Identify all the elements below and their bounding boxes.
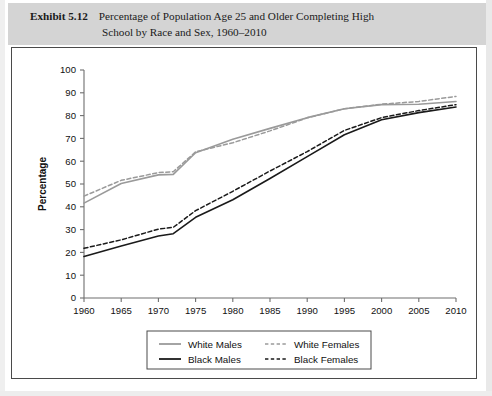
y-axis: 0102030405060708090100 — [60, 64, 84, 303]
x-axis: 1960196519701975198019851990199520002005… — [73, 298, 466, 316]
page-edge-left-shade — [0, 0, 5, 396]
x-tick-label: 1960 — [73, 305, 94, 316]
y-tick-label: 80 — [65, 110, 76, 121]
series-line-black-males — [84, 107, 456, 257]
y-tick-label: 30 — [65, 224, 76, 235]
y-tick-label: 70 — [65, 133, 76, 144]
y-tick-label: 10 — [65, 270, 76, 281]
exhibit-header-text: Exhibit 5.12Percentage of Population Age… — [30, 9, 480, 40]
x-tick-label: 1995 — [334, 305, 355, 316]
y-axis-title: Percentage — [37, 157, 48, 211]
x-tick-label: 1985 — [259, 305, 280, 316]
line-chart: 0102030405060708090100 19601965197019751… — [12, 48, 478, 380]
y-tick-label: 50 — [65, 178, 76, 189]
y-tick-label: 60 — [65, 156, 76, 167]
x-tick-label: 2005 — [408, 305, 429, 316]
x-tick-label: 2000 — [371, 305, 392, 316]
exhibit-caption: Percentage of Population Age 25 and Olde… — [30, 10, 480, 40]
x-tick-label: 1970 — [148, 305, 169, 316]
y-tick-label: 0 — [71, 292, 76, 303]
y-tick-label: 40 — [65, 201, 76, 212]
legend-label-white-females: White Females — [294, 339, 359, 350]
legend-label-white-males: White Males — [188, 339, 242, 350]
y-tick-label: 90 — [65, 87, 76, 98]
exhibit-number-label: Exhibit 5.12 — [30, 10, 88, 22]
x-tick-label: 1990 — [297, 305, 318, 316]
chart-legend: White MalesWhite FemalesBlack MalesBlack… — [147, 331, 371, 369]
series-line-white-females — [84, 96, 456, 196]
y-tick-label: 100 — [60, 64, 76, 75]
exhibit-caption-line-1: Percentage of Population Age 25 and Olde… — [99, 10, 374, 22]
legend-label-black-females: Black Females — [294, 354, 358, 365]
page-edge-bottom-shade — [0, 391, 492, 396]
x-tick-label: 1975 — [185, 305, 206, 316]
exhibit-header-band: Exhibit 5.12Percentage of Population Age… — [8, 3, 486, 45]
figure-frame: 0102030405060708090100 19601965197019751… — [11, 47, 477, 379]
x-tick-label: 1965 — [111, 305, 132, 316]
x-tick-label: 2010 — [445, 305, 466, 316]
exhibit-page: Exhibit 5.12Percentage of Population Age… — [0, 0, 492, 396]
y-tick-label: 20 — [65, 247, 76, 258]
exhibit-caption-line-2: School by Race and Sex, 1960–2010 — [102, 25, 480, 40]
legend-label-black-males: Black Males — [188, 354, 241, 365]
y-axis-title-text: Percentage — [37, 157, 48, 211]
chart-svg: 0102030405060708090100 19601965197019751… — [12, 48, 478, 380]
data-series-group — [84, 96, 456, 256]
x-tick-label: 1980 — [222, 305, 243, 316]
page-edge-right-shade — [486, 0, 492, 396]
